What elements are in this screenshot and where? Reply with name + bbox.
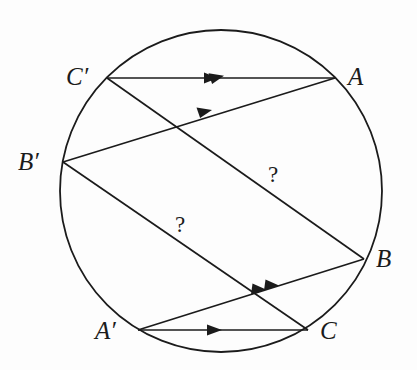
vertex-label-c-prime: C′	[66, 64, 88, 89]
vertex-label-c: C	[320, 318, 337, 343]
vertex-label-b: B	[376, 246, 391, 271]
segment-bprime-c-line	[63, 162, 308, 330]
segment-bprime-a-line	[63, 78, 335, 162]
question-mark-annotation-upper: ?	[268, 163, 278, 186]
single-arrowhead-icon	[207, 325, 222, 336]
vertex-label-a-prime: A′	[95, 318, 116, 343]
segment-bprime-c	[63, 162, 308, 330]
question-mark-annotation-lower: ?	[175, 213, 185, 236]
geometry-figure: A B C A′ B′ C′ ? ?	[0, 0, 417, 370]
segment-bprime-a	[63, 73, 335, 162]
segment-cprime-b	[107, 78, 364, 259]
vertex-label-b-prime: B′	[18, 149, 39, 174]
vertex-label-a: A	[348, 64, 363, 89]
segment-cprime-a	[107, 73, 335, 84]
diagram-canvas	[0, 0, 417, 370]
double-arrowhead-icon	[251, 284, 266, 295]
segment-cprime-b-line	[107, 78, 364, 259]
segment-aprime-c	[138, 325, 308, 336]
